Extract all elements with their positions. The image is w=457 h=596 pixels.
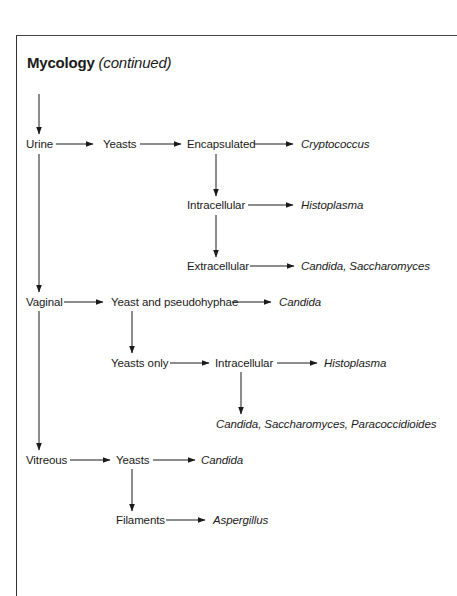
result-candida-saccharomyces: Candida, Saccharomyces [301, 259, 430, 273]
node-extracellular: Extracellular [187, 259, 249, 273]
result-cryptococcus: Cryptococcus [301, 137, 369, 151]
node-encapsulated: Encapsulated [187, 137, 256, 151]
result-histoplasma-1: Histoplasma [301, 198, 363, 212]
node-urine: Urine [26, 137, 53, 151]
node-filaments: Filaments [116, 513, 165, 527]
result-candida-2: Candida [201, 453, 243, 467]
node-intracellular-2: Intracellular [215, 356, 273, 370]
node-urine-yeasts: Yeasts [103, 137, 137, 151]
result-candida-saccharomyces-paracoccidioides: Candida, Saccharomyces, Paracoccidioides [216, 417, 436, 431]
result-candida-1: Candida [279, 295, 321, 309]
node-yeasts-only: Yeasts only [111, 356, 168, 370]
node-vitreous-yeasts: Yeasts [116, 453, 150, 467]
result-histoplasma-2: Histoplasma [324, 356, 386, 370]
node-vaginal: Vaginal [26, 295, 63, 309]
result-aspergillus: Aspergillus [213, 513, 268, 527]
node-intracellular-1: Intracellular [187, 198, 245, 212]
node-vitreous: Vitreous [26, 453, 67, 467]
node-yeast-pseudohyphae: Yeast and pseudohyphae [111, 295, 238, 309]
